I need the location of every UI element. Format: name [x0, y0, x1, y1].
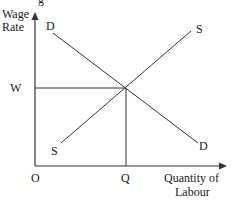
- y-axis-label-line1: Wage: [2, 7, 29, 21]
- x-axis-label-line1: Quantity of: [164, 171, 219, 185]
- labour-market-diagram: g Wage Rate D S W S D O Q Quantity of La…: [0, 0, 233, 201]
- wage-label: W: [10, 81, 22, 95]
- origin-label: O: [31, 171, 40, 185]
- y-axis-arrow-icon: [32, 12, 39, 20]
- x-axis-label-line2: Labour: [175, 185, 210, 199]
- x-axis-arrow-icon: [219, 163, 227, 170]
- title-fragment: g: [38, 0, 44, 6]
- quantity-label: Q: [121, 171, 130, 185]
- demand-label-top: D: [46, 19, 55, 33]
- supply-label-top: S: [196, 22, 203, 36]
- y-axis-label-line2: Rate: [2, 20, 24, 34]
- demand-label-bottom: D: [199, 139, 208, 153]
- supply-label-bottom: S: [51, 144, 58, 158]
